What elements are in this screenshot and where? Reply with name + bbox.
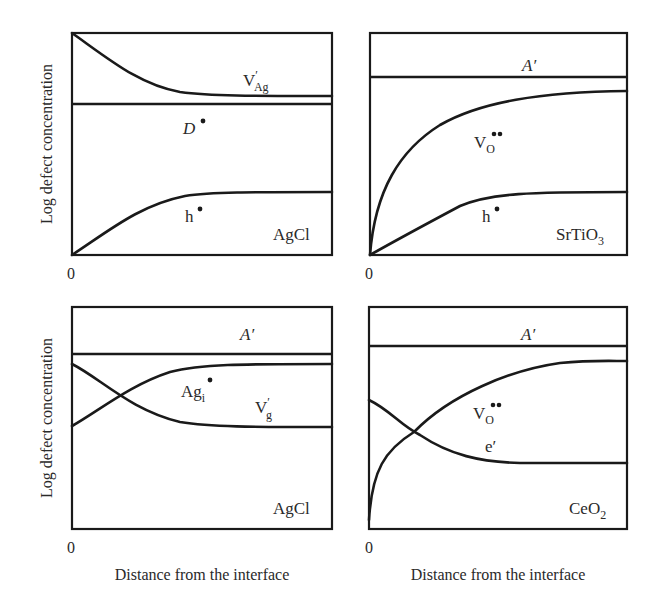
panel-frame xyxy=(369,307,627,529)
material-label: AgCl xyxy=(273,225,310,244)
y-axis-label-bottom: Log defect concentration xyxy=(38,338,56,498)
origin-tick: 0 xyxy=(365,265,373,282)
curve-hole xyxy=(72,192,332,255)
label-hole: h xyxy=(482,207,491,226)
x-axis-label: Distance from the interface xyxy=(411,566,586,583)
label-donor: D xyxy=(182,119,196,138)
panel-agcl-donor: V′Ag D h AgCl 0 xyxy=(67,33,332,282)
panel-frame xyxy=(370,33,627,255)
label-vacancy: V′g xyxy=(255,395,272,422)
y-axis-label-top: Log defect concentration xyxy=(38,64,56,224)
charge-dot-icon xyxy=(497,403,502,408)
defect-concentration-figure: Log defect concentration Log defect conc… xyxy=(0,0,656,601)
origin-tick: 0 xyxy=(67,539,75,556)
charge-dot-icon xyxy=(498,132,503,137)
panel-ceo2: A′ VO e′ CeO2 0 Distance from the interf… xyxy=(365,307,627,583)
charge-dot-icon xyxy=(201,119,206,124)
label-oxygen-vacancy: VO xyxy=(473,404,494,427)
material-label: CeO2 xyxy=(569,499,606,522)
material-label: AgCl xyxy=(273,499,310,518)
label-electron: e′ xyxy=(485,437,496,456)
panel-frame xyxy=(72,33,332,255)
label-acceptor: A′ xyxy=(521,56,536,75)
curve-v-ag xyxy=(72,33,332,96)
charge-dot-icon xyxy=(492,132,497,137)
curve-oxygen-vacancy xyxy=(369,361,627,520)
material-label: SrTiO3 xyxy=(556,225,604,248)
curve-hole xyxy=(370,192,627,255)
label-acceptor: A′ xyxy=(520,325,535,344)
origin-tick: 0 xyxy=(365,539,373,556)
panel-srtio3: A′ VO h SrTiO3 0 xyxy=(365,33,627,282)
charge-dot-icon xyxy=(208,378,213,383)
panel-agcl-acceptor: A′ Agi V′g AgCl 0 Distance from the inte… xyxy=(67,307,332,583)
x-axis-label: Distance from the interface xyxy=(115,566,290,583)
label-acceptor: A′ xyxy=(239,325,254,344)
label-silver-interstitial: Agi xyxy=(181,382,206,405)
charge-dot-icon xyxy=(198,207,203,212)
panel-frame xyxy=(72,307,332,529)
label-hole: h xyxy=(185,207,194,226)
charge-dot-icon xyxy=(495,207,500,212)
charge-dot-icon xyxy=(491,403,496,408)
curve-electron xyxy=(369,400,627,463)
origin-tick: 0 xyxy=(67,265,75,282)
label-oxygen-vacancy: VO xyxy=(474,133,495,156)
label-v-ag: V′Ag xyxy=(243,68,269,94)
